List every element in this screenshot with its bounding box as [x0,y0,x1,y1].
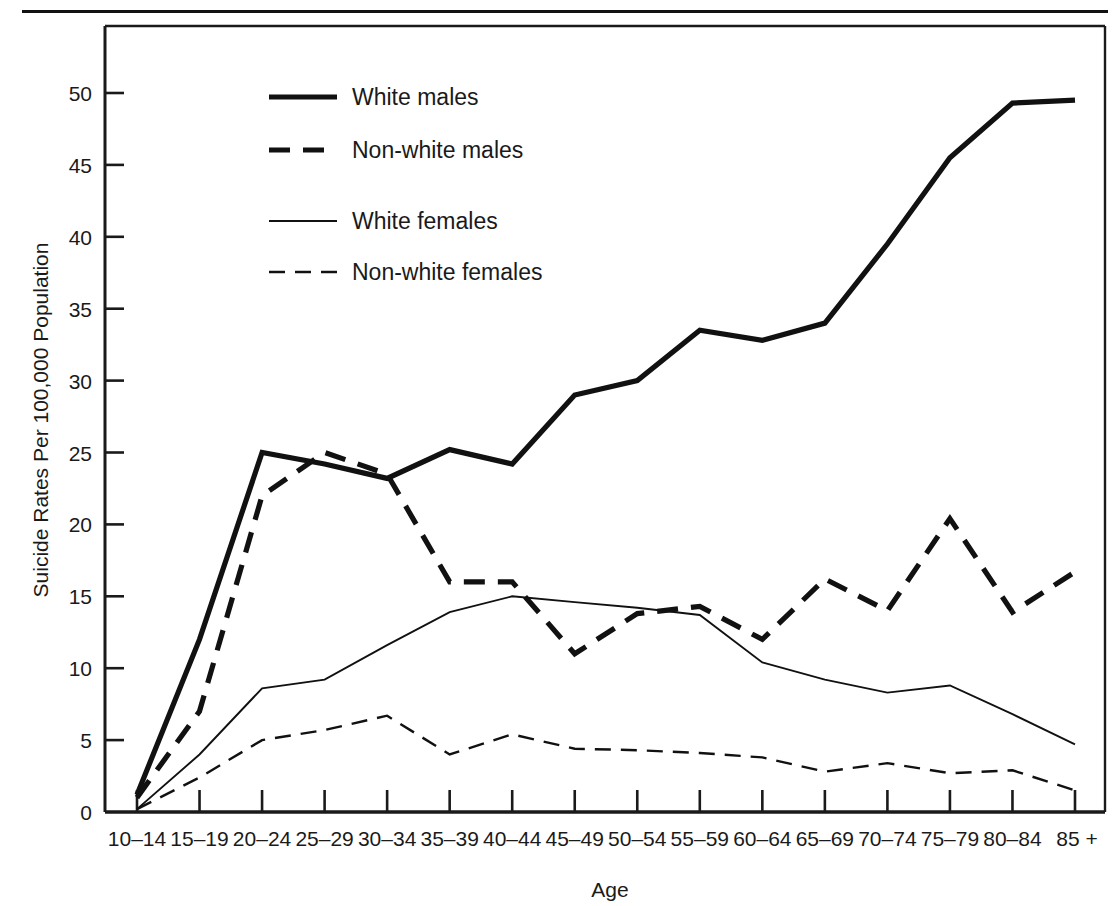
y-tick-label: 20 [69,513,92,536]
x-axis-title: Age [591,878,628,901]
x-tick-label: 80–84 [983,827,1042,850]
suicide-rates-by-age-chart: 05101520253035404550 10–1415–1920–2425–2… [0,0,1120,906]
x-tick-label: 65–69 [796,827,854,850]
y-tick-label: 15 [69,585,92,608]
data-series-group [137,100,1075,809]
x-tick-label: 20–24 [233,827,292,850]
chart-canvas: 05101520253035404550 10–1415–1920–2425–2… [0,0,1120,906]
y-axis-ticks [105,93,124,740]
x-tick-label: 15–19 [170,827,228,850]
x-tick-label: 30–34 [358,827,417,850]
legend-label: White females [352,208,498,234]
x-tick-label: 75–79 [921,827,979,850]
y-tick-label: 50 [69,82,92,105]
x-tick-label: 85 + [1056,827,1097,850]
y-axis-tick-labels: 05101520253035404550 [69,82,92,824]
y-tick-label: 0 [80,801,92,824]
y-tick-label: 30 [69,370,92,393]
y-axis-title: Suicide Rates Per 100,000 Population [29,243,52,598]
x-tick-label: 35–39 [420,827,478,850]
legend-label: Non-white males [352,137,523,163]
chart-legend: White malesNon-white malesWhite femalesN… [269,84,542,285]
series-line-non-white-females [137,716,1075,809]
x-tick-label: 10–14 [108,827,167,850]
x-axis-tick-labels: 10–1415–1920–2425–2930–3435–3940–4445–49… [108,827,1098,850]
y-tick-label: 45 [69,154,92,177]
x-axis-ticks [137,790,1075,812]
x-tick-label: 55–59 [671,827,729,850]
series-line-white-males [137,100,1075,795]
x-tick-label: 70–74 [858,827,917,850]
x-tick-label: 50–54 [608,827,667,850]
y-tick-label: 10 [69,657,92,680]
x-tick-label: 60–64 [733,827,792,850]
x-tick-label: 40–44 [483,827,542,850]
y-tick-label: 5 [80,729,92,752]
series-line-white-females [137,596,1075,809]
x-tick-label: 25–29 [295,827,353,850]
x-tick-label: 45–49 [546,827,604,850]
y-tick-label: 40 [69,226,92,249]
y-tick-label: 25 [69,442,92,465]
y-tick-label: 35 [69,298,92,321]
legend-label: White males [352,84,479,110]
legend-label: Non-white females [352,259,542,285]
series-line-non-white-males [137,453,1075,798]
